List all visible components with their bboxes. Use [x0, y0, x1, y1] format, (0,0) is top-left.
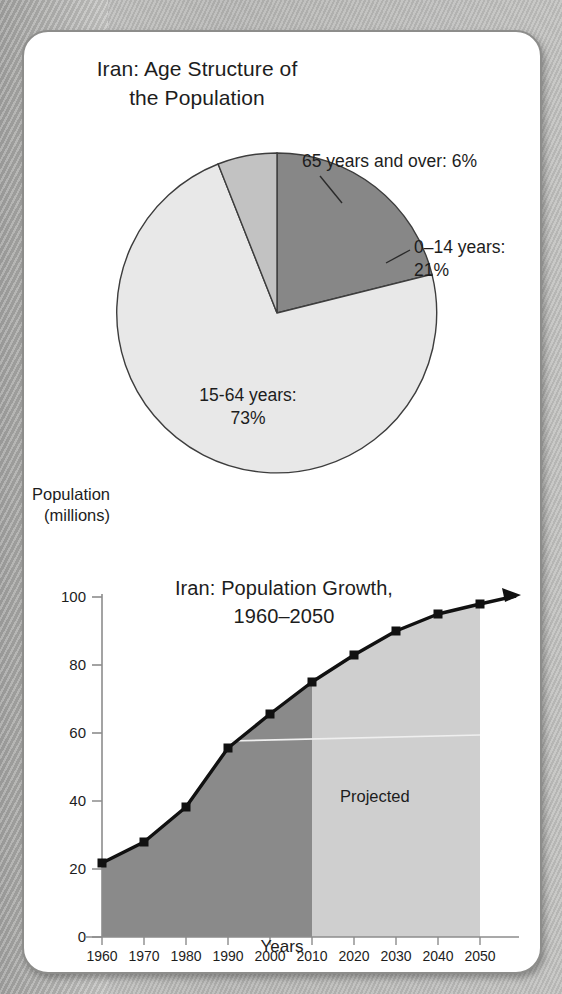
area-chart-figure: Population (millions) Iran: Population G…	[24, 482, 540, 972]
data-point-1960	[98, 859, 107, 868]
y-tick-100: 100	[61, 588, 86, 605]
trend-arrow-head	[502, 588, 521, 602]
data-point-2050	[476, 600, 485, 609]
y-tick-20: 20	[69, 860, 86, 877]
pie-label-0-14-line-1: 0–14 years:	[414, 236, 505, 259]
pie-label-65-and-over: 65 years and over: 6%	[302, 150, 477, 173]
pie-title-line-1: Iran: Age Structure of	[42, 54, 352, 83]
data-point-2040	[434, 610, 443, 619]
figure-card: Iran: Age Structure of the Population 65…	[22, 30, 542, 974]
data-point-2010	[308, 678, 317, 687]
data-point-2030	[392, 627, 401, 636]
pie-label-15-64-line-1: 15-64 years:	[158, 384, 338, 407]
y-tick-40: 40	[69, 792, 86, 809]
data-point-2020	[350, 651, 359, 660]
pie-chart-figure: Iran: Age Structure of the Population 65…	[24, 54, 540, 484]
y-axis-ticks	[92, 597, 102, 937]
data-point-2000	[266, 710, 275, 719]
data-point-1970	[140, 838, 149, 847]
pie-label-15-64: 15-64 years: 73%	[158, 384, 338, 430]
area-fill-projected	[312, 604, 480, 937]
projected-region-label: Projected	[340, 787, 410, 806]
pie-chart-title: Iran: Age Structure of the Population	[42, 54, 352, 112]
area-chart-graphic: 100 80 60 40 20 0 1960	[24, 482, 540, 972]
data-point-1990	[224, 744, 233, 753]
area-fill-actual	[102, 682, 312, 937]
pie-title-line-2: the Population	[42, 83, 352, 112]
y-tick-60: 60	[69, 724, 86, 741]
pie-label-15-64-line-2: 73%	[158, 407, 338, 430]
pie-label-0-14: 0–14 years: 21%	[414, 236, 505, 282]
y-axis-tick-labels: 100 80 60 40 20 0	[61, 588, 86, 945]
y-tick-80: 80	[69, 656, 86, 673]
data-point-1980	[182, 803, 191, 812]
x-axis-label: Years	[24, 937, 540, 957]
pie-label-0-14-line-2: 21%	[414, 259, 505, 282]
